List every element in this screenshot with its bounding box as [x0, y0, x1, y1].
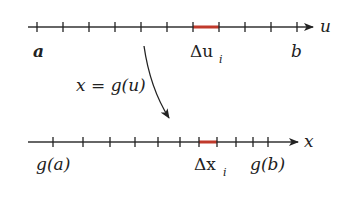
diagram-svg: a Δu i b u x = g(u) g(a) Δx i g(b) x	[0, 0, 350, 198]
u-axis	[28, 22, 313, 32]
mapping-label: x = g(u)	[76, 75, 146, 95]
change-of-variables-diagram: a Δu i b u x = g(u) g(a) Δx i g(b) x	[0, 0, 350, 198]
label-a: a	[33, 41, 44, 61]
mapping-arrow	[144, 46, 169, 118]
label-delta-x-subscript: i	[223, 166, 227, 179]
delta-u-main: Δu	[190, 41, 213, 61]
delta-x-main: Δx	[194, 154, 216, 174]
x-axis	[28, 137, 298, 147]
label-delta-u-subscript: i	[219, 53, 223, 66]
label-g-b: g(b)	[250, 154, 285, 174]
label-delta-u: Δu	[190, 41, 213, 61]
u-axis-variable-label: u	[320, 16, 331, 36]
label-delta-x: Δx	[194, 154, 216, 174]
x-axis-variable-label: x	[304, 131, 314, 151]
label-b: b	[291, 41, 302, 61]
label-g-a: g(a)	[36, 154, 70, 174]
